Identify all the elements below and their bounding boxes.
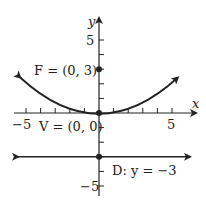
x-tick-label-5: 5 <box>167 117 175 132</box>
parabola-figure: y x 5 −5 −5 5 F = (0, 3) V = (0, 0) D: y… <box>0 0 206 206</box>
vertex-label: V = (0, 0) <box>38 119 103 134</box>
focus-label: F = (0, 3) <box>34 63 97 78</box>
y-tick-label-neg5: −5 <box>80 179 99 194</box>
vertex-point <box>96 110 102 116</box>
x-axis-label: x <box>192 96 200 111</box>
directrix-label: D: y = −3 <box>112 163 177 178</box>
x-tick-label-neg5: −5 <box>12 117 31 132</box>
directrix-point <box>96 154 102 160</box>
y-axis-label: y <box>87 14 96 29</box>
y-tick-label-5: 5 <box>86 33 94 48</box>
coordinate-plane: y x 5 −5 −5 5 F = (0, 3) V = (0, 0) D: y… <box>0 0 206 206</box>
